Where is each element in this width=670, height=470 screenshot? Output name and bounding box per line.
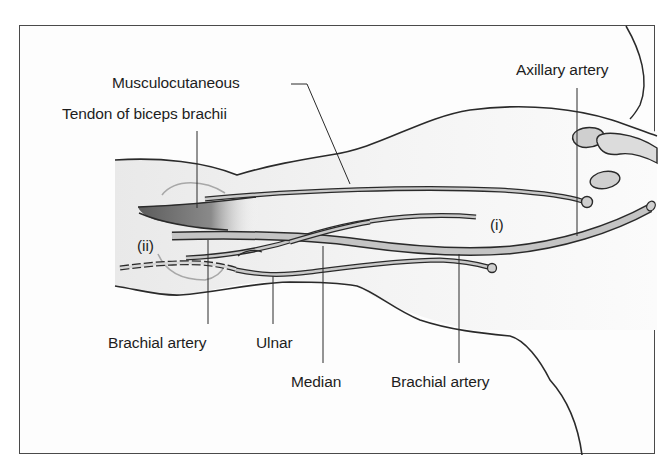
label-median: Median — [291, 373, 341, 391]
ulnar-nerve-end — [488, 264, 497, 273]
label-marker-i: (i) — [490, 216, 503, 234]
label-marker-ii: (ii) — [137, 237, 154, 255]
label-musculocutaneous: Musculocutaneous — [112, 74, 240, 92]
label-ulnar: Ulnar — [256, 334, 293, 352]
label-brachial-artery-right: Brachial artery — [391, 373, 489, 391]
axilla-contour — [626, 26, 644, 119]
label-tendon-biceps-brachii: Tendon of biceps brachii — [62, 105, 227, 123]
musculocutaneous-nerve-end — [582, 197, 593, 208]
label-brachial-artery-left: Brachial artery — [108, 334, 206, 352]
label-axillary-artery: Axillary artery — [516, 61, 608, 79]
